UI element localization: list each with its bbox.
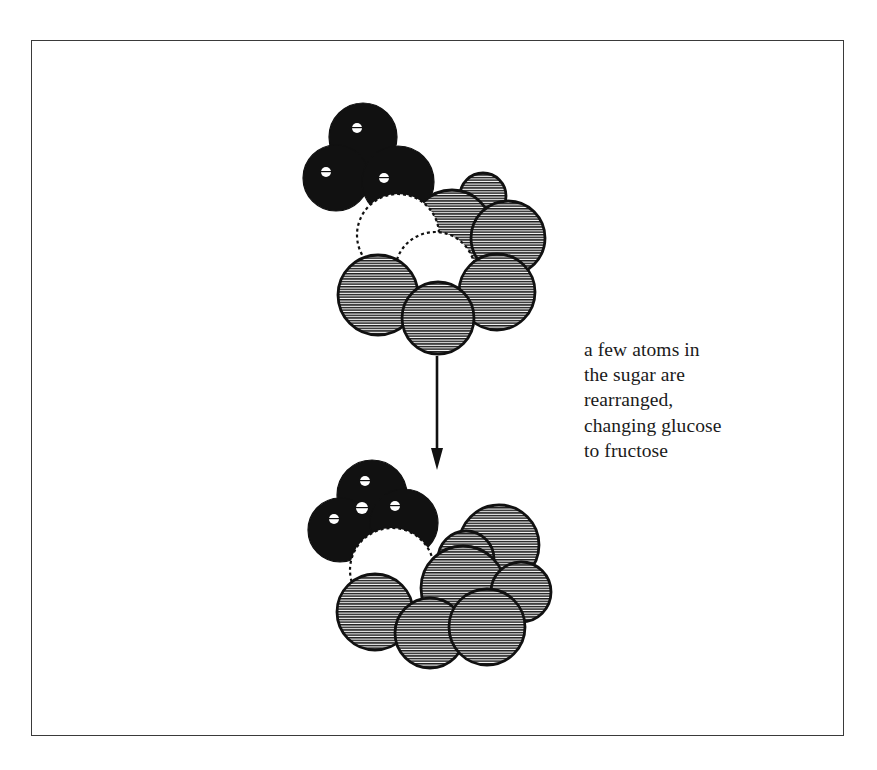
- figure-root: a few atoms in the sugar are rearranged,…: [0, 0, 877, 770]
- caption-text: a few atoms in the sugar are rearranged,…: [584, 337, 784, 463]
